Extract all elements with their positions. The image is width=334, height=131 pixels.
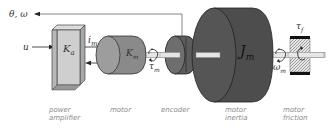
caption-power-amplifier: poweramplifier [49,106,80,122]
angular-velocity-label: ωm [273,63,286,75]
output-signal-label: θ, ω [9,10,27,19]
shaft-inertia-front [196,53,220,58]
motor-torque-label: τm [149,62,160,74]
motor-current-label: im [88,36,98,49]
friction-block [288,36,324,75]
caption-motor-friction: motorfriction [283,106,308,122]
input-signal-label: u [23,43,29,52]
input-arrow [32,45,55,49]
motor-drive-diagram: θ, ω u Ka im Km τm Jm τf ωm poweramplifi… [0,0,334,131]
inertia-label: Jm [240,47,254,62]
motor-constant-label: Km [126,49,138,61]
motor-cylinder [96,36,146,74]
caption-motor-inertia: motorinertia [225,106,248,122]
shaft-front [160,53,180,58]
friction-torque-label: τf [296,22,303,34]
amplifier-gain-label: Ka [63,44,75,58]
caption-encoder: encoder [161,106,190,114]
caption-motor: motor [110,106,131,114]
